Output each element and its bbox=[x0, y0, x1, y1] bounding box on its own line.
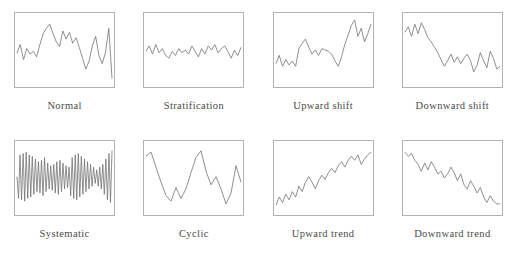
chart-panel-upward-shift bbox=[273, 12, 374, 88]
panel-caption-upward-trend: Upward trend bbox=[292, 229, 355, 240]
panel-caption-downward-shift: Downward shift bbox=[416, 101, 490, 112]
panel-caption-normal: Normal bbox=[47, 101, 81, 112]
series-line-downward-trend bbox=[405, 152, 500, 204]
sparkline-stratification bbox=[144, 13, 243, 87]
sparkline-normal bbox=[15, 13, 114, 87]
pattern-row-top: Normal Stratification Upward shift bbox=[0, 12, 517, 112]
series-line-upward-trend bbox=[276, 152, 371, 205]
sparkline-downward-trend bbox=[403, 141, 502, 215]
panel-caption-stratification: Stratification bbox=[164, 101, 224, 112]
pattern-cell-downward-trend: Downward trend bbox=[388, 140, 517, 240]
control-chart-pattern-figure: Normal Stratification Upward shift bbox=[0, 0, 517, 254]
series-line-downward-shift bbox=[405, 23, 500, 72]
panel-caption-systematic: Systematic bbox=[40, 229, 90, 240]
panel-caption-upward-shift: Upward shift bbox=[293, 101, 353, 112]
series-line-stratification bbox=[146, 45, 241, 59]
chart-panel-normal bbox=[14, 12, 115, 88]
series-line-normal bbox=[17, 24, 112, 78]
sparkline-upward-shift bbox=[274, 13, 373, 87]
chart-panel-upward-trend bbox=[273, 140, 374, 216]
pattern-row-bottom: Systematic Cyclic Upward trend bbox=[0, 140, 517, 240]
chart-panel-systematic bbox=[14, 140, 115, 216]
chart-panel-downward-shift bbox=[402, 12, 503, 88]
sparkline-systematic bbox=[15, 141, 114, 215]
sparkline-cyclic bbox=[144, 141, 243, 215]
series-line-systematic bbox=[17, 151, 112, 203]
series-line-upward-shift bbox=[276, 20, 371, 66]
chart-panel-downward-trend bbox=[402, 140, 503, 216]
series-line-cyclic bbox=[146, 151, 241, 204]
pattern-cell-downward-shift: Downward shift bbox=[388, 12, 517, 112]
pattern-cell-stratification: Stratification bbox=[129, 12, 258, 112]
panel-caption-cyclic: Cyclic bbox=[179, 229, 209, 240]
sparkline-upward-trend bbox=[274, 141, 373, 215]
pattern-cell-upward-trend: Upward trend bbox=[259, 140, 388, 240]
pattern-cell-systematic: Systematic bbox=[0, 140, 129, 240]
chart-panel-cyclic bbox=[143, 140, 244, 216]
panel-caption-downward-trend: Downward trend bbox=[414, 229, 490, 240]
pattern-cell-upward-shift: Upward shift bbox=[259, 12, 388, 112]
pattern-cell-normal: Normal bbox=[0, 12, 129, 112]
sparkline-downward-shift bbox=[403, 13, 502, 87]
chart-panel-stratification bbox=[143, 12, 244, 88]
pattern-cell-cyclic: Cyclic bbox=[129, 140, 258, 240]
